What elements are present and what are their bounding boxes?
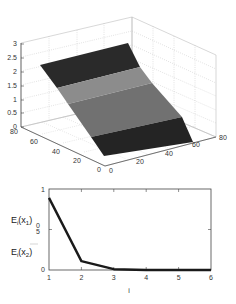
z-tick-label: 0.5 [7, 109, 17, 116]
x-axis-labels: 1 2 3 4 5 6 [47, 274, 213, 281]
x-tick-label: 3 [112, 274, 116, 281]
y-tick-label: 60 [30, 138, 38, 145]
data-series-line [49, 198, 211, 270]
line-plot: 1 2 3 4 5 6 1 0 5 0 Ei(x1) Ei(x2) i [11, 186, 213, 294]
x-tick-label: 4 [144, 274, 148, 281]
z-axis-labels: 3 2.5 2 1.5 1 0.5 0 [7, 40, 17, 130]
figure: 3 2.5 2 1.5 1 0.5 0 80 60 40 20 0 0 20 4… [0, 0, 236, 304]
z-tick-label: 1 [13, 96, 17, 103]
y-axis-title: Ei(x1) Ei(x2) [11, 215, 38, 258]
y-tick-label: 5 [36, 228, 40, 235]
x-tick-label: 20 [136, 158, 144, 165]
ylabel-numerator: Ei(x1) [11, 215, 32, 226]
x-tick-label: 60 [192, 141, 200, 148]
y-tick-label: 20 [73, 157, 81, 164]
x-tick-label: 2 [79, 274, 83, 281]
surface-plot-3d: 3 2.5 2 1.5 1 0.5 0 80 60 40 20 0 0 20 4… [7, 17, 227, 174]
y-tick-label: 80 [10, 128, 18, 135]
z-tick-label: 1.5 [7, 82, 17, 89]
x-tick-label: 6 [209, 274, 213, 281]
z-tick-label: 2.5 [7, 54, 17, 61]
x-tick-label: 40 [165, 150, 173, 157]
y-tick-label: 40 [52, 148, 60, 155]
z-tick-label: 2 [13, 68, 17, 75]
x-axis-ticks [49, 189, 211, 270]
surface [40, 43, 193, 156]
y-tick-label: 0 [41, 266, 45, 273]
x-tick-label: 80 [219, 134, 227, 141]
plot-area [49, 189, 211, 270]
x-axis-title: i [128, 287, 130, 294]
ylabel-denominator: Ei(x2) [11, 247, 32, 258]
x-tick-label: 1 [47, 274, 51, 281]
y-tick-label: 0 [97, 166, 101, 173]
y-axis-labels: 1 0 5 0 [36, 186, 45, 273]
left-axis-labels: 80 60 40 20 0 [10, 128, 101, 173]
y-tick-label: 1 [41, 186, 45, 193]
x-tick-label: 0 [109, 167, 113, 174]
z-tick-label: 3 [13, 40, 17, 47]
x-tick-label: 5 [177, 274, 181, 281]
